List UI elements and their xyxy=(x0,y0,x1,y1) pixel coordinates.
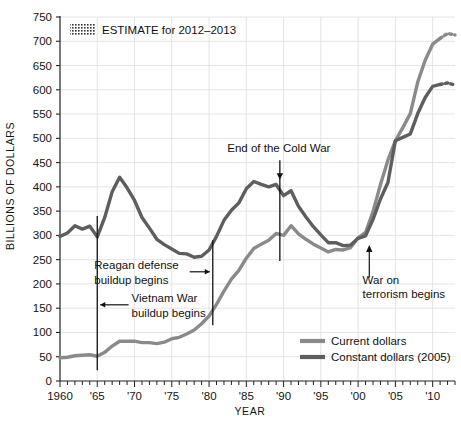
legend-label: Constant dollars (2005) xyxy=(331,351,451,363)
x-tick-label: '90 xyxy=(276,390,291,402)
x-tick-label: '00 xyxy=(351,390,366,402)
y-tick-label: 50 xyxy=(39,351,52,363)
y-tick-label: 700 xyxy=(33,35,52,47)
legend-label: Current dollars xyxy=(331,335,407,347)
x-tick-label: '75 xyxy=(164,390,179,402)
annotation-label: Vietnam War xyxy=(132,292,198,304)
y-tick-label: 100 xyxy=(33,326,52,338)
x-tick-label: '95 xyxy=(313,390,328,402)
x-tick-label: '85 xyxy=(239,390,254,402)
y-tick-label: 250 xyxy=(33,254,52,266)
annotation-label: War on xyxy=(363,274,400,286)
x-tick-label: 1960 xyxy=(47,390,73,402)
x-axis-title: YEAR xyxy=(235,405,266,417)
x-tick-label: '10 xyxy=(425,390,440,402)
x-tick-label: '05 xyxy=(388,390,403,402)
chart-canvas: 0501001502002503003504004505005506006507… xyxy=(0,0,461,424)
estimate-note-label: ESTIMATE for 2012–2013 xyxy=(102,24,236,36)
y-tick-label: 200 xyxy=(33,278,52,290)
y-tick-label: 650 xyxy=(33,60,52,72)
x-tick-label: '80 xyxy=(202,390,217,402)
y-tick-label: 400 xyxy=(33,181,52,193)
y-tick-label: 150 xyxy=(33,302,52,314)
y-axis-title: BILLIONS OF DOLLARS xyxy=(4,122,16,250)
series-estimate-segment xyxy=(440,83,455,85)
y-tick-label: 600 xyxy=(33,84,52,96)
annotation-label: buildup begins xyxy=(94,274,168,286)
x-tick-label: '65 xyxy=(90,390,105,402)
estimate-swatch-icon xyxy=(70,24,96,35)
defense-spending-chart: 0501001502002503003504004505005506006507… xyxy=(0,0,461,424)
estimate-note: ESTIMATE for 2012–2013 xyxy=(70,24,236,36)
y-tick-label: 300 xyxy=(33,229,52,241)
annotation-label: terrorism begins xyxy=(363,288,446,300)
y-tick-label: 500 xyxy=(33,132,52,144)
y-tick-label: 0 xyxy=(46,375,52,387)
annotation-label: End of the Cold War xyxy=(227,142,330,154)
y-tick-label: 750 xyxy=(33,11,52,23)
y-tick-label: 550 xyxy=(33,108,52,120)
annotation-label: Reagan defense xyxy=(94,259,178,271)
annotation-label: buildup begins xyxy=(132,307,206,319)
y-tick-label: 350 xyxy=(33,205,52,217)
x-tick-label: '70 xyxy=(127,390,142,402)
y-tick-label: 450 xyxy=(33,157,52,169)
